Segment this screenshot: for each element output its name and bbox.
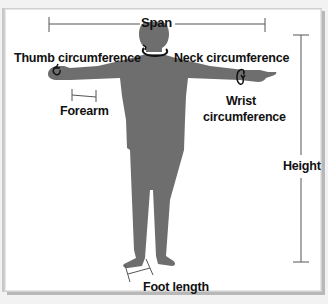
span-label: Span bbox=[141, 16, 172, 30]
forearm-dimension bbox=[72, 89, 96, 102]
height-dimension bbox=[293, 35, 309, 262]
wrist-label-line2: circumference bbox=[203, 110, 279, 124]
wrist-circumference-label: Wrist circumference bbox=[203, 94, 279, 124]
height-label: Height bbox=[283, 159, 321, 173]
thumb-circumference-label: Thumb circumference bbox=[14, 51, 141, 65]
forearm-label: Forearm bbox=[60, 104, 109, 118]
legs bbox=[123, 150, 184, 268]
foot-length-label: Foot length bbox=[143, 280, 209, 294]
wrist-label-line1: Wrist bbox=[203, 94, 279, 108]
body-diagram bbox=[0, 0, 328, 304]
neck-circumference-label: Neck circumference bbox=[174, 51, 289, 65]
